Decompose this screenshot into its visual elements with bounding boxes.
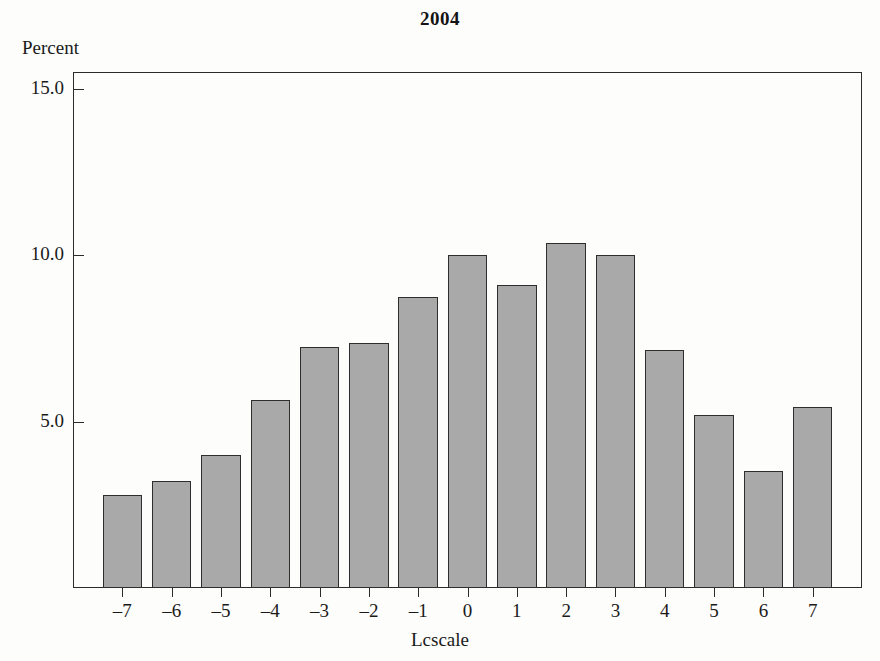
bar [596, 255, 635, 588]
x-axis-label: Lcscale [0, 629, 880, 651]
x-axis-tick [320, 588, 321, 597]
bar [398, 297, 437, 588]
bar [645, 350, 684, 588]
chart-page: 2004 Percent 5.010.015.0 –7–6–5–4–3–2–10… [0, 0, 880, 661]
x-axis-tick [517, 588, 518, 597]
x-axis-tick [369, 588, 370, 597]
bar [251, 400, 290, 588]
bars-layer [73, 72, 862, 588]
bar [546, 243, 585, 588]
bar [349, 343, 388, 588]
x-axis-tick [665, 588, 666, 597]
x-axis-tick [418, 588, 419, 597]
x-axis-tick [813, 588, 814, 597]
bar [448, 255, 487, 588]
y-axis-tick-label: 15.0 [0, 77, 64, 99]
x-axis-tick [615, 588, 616, 597]
x-axis-tick-label: 7 [783, 600, 843, 622]
bar [201, 455, 240, 588]
y-axis-label: Percent [22, 37, 79, 59]
bar [103, 495, 142, 588]
bar [793, 407, 832, 588]
chart-title: 2004 [0, 8, 880, 30]
x-axis-tick [714, 588, 715, 597]
bar [497, 285, 536, 588]
bar [694, 415, 733, 588]
y-axis-tick-label: 5.0 [0, 410, 64, 432]
x-axis-tick [566, 588, 567, 597]
x-axis-tick [763, 588, 764, 597]
y-axis-tick-label: 10.0 [0, 243, 64, 265]
x-axis-tick [468, 588, 469, 597]
x-axis-tick [172, 588, 173, 597]
bar [744, 471, 783, 588]
bar [300, 347, 339, 588]
x-axis-tick [122, 588, 123, 597]
bar [152, 481, 191, 588]
x-axis-tick [270, 588, 271, 597]
x-axis-tick [221, 588, 222, 597]
